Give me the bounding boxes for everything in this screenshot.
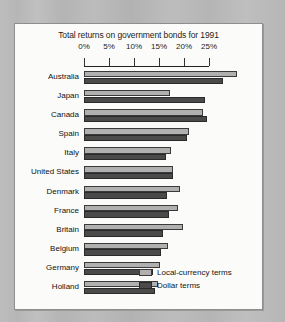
bar-dollar <box>84 135 187 141</box>
bar-local-currency <box>84 147 171 153</box>
x-axis-tick-label: 20% <box>176 42 192 51</box>
legend-label-dollar: Dollar terms <box>157 281 200 290</box>
category-label: Britain <box>15 225 79 234</box>
bar-row: Spain <box>15 126 264 145</box>
category-label: France <box>15 206 79 215</box>
x-axis-tick-label: 10% <box>126 42 142 51</box>
legend-label-local-currency: Local-currency terms <box>157 268 232 277</box>
x-axis-tick <box>84 58 85 66</box>
x-axis-tick-label: 25% <box>201 42 217 51</box>
chart-title: Total returns on government bonds for 19… <box>15 30 262 40</box>
bar-row: Canada <box>15 107 264 126</box>
bar-row: Australia <box>15 69 264 88</box>
bar-dollar <box>84 230 163 236</box>
bar-local-currency <box>84 205 178 211</box>
x-axis-tick-label: 0% <box>78 42 90 51</box>
bar-dollar <box>84 211 169 217</box>
legend-item-dollar: Dollar terms <box>139 280 232 291</box>
x-axis-tick <box>209 58 210 66</box>
x-axis-tick <box>159 58 160 66</box>
chart-legend: Local-currency terms Dollar terms <box>139 267 232 293</box>
bar-dollar <box>84 173 173 179</box>
x-axis-tick <box>134 58 135 66</box>
bar-local-currency <box>84 186 180 192</box>
bar-local-currency <box>84 71 237 77</box>
bar-dollar <box>84 192 167 198</box>
category-label: Holland <box>15 282 79 291</box>
legend-item-local-currency: Local-currency terms <box>139 267 232 278</box>
bar-row: Italy <box>15 145 264 164</box>
category-label: Canada <box>15 110 79 119</box>
legend-swatch-dollar <box>139 282 152 289</box>
bar-rows: AustraliaJapanCanadaSpainItalyUnited Sta… <box>15 69 264 298</box>
x-axis-tick-labels: 0%5%10%15%20%25% <box>15 42 264 53</box>
category-label: Germany <box>15 263 79 272</box>
x-axis-tick <box>184 58 185 66</box>
bar-dollar <box>84 249 161 255</box>
bar-local-currency <box>84 243 168 249</box>
bar-local-currency <box>84 224 183 230</box>
bar-local-currency <box>84 90 170 96</box>
x-axis-line <box>84 66 209 67</box>
legend-swatch-local-currency <box>139 269 152 276</box>
bar-dollar <box>84 154 166 160</box>
bar-row: United States <box>15 164 264 183</box>
category-label: Japan <box>15 91 79 100</box>
category-label: Italy <box>15 148 79 157</box>
category-label: Australia <box>15 72 79 81</box>
category-label: Spain <box>15 129 79 138</box>
x-axis-tick-label: 15% <box>151 42 167 51</box>
bar-row: Britain <box>15 222 264 241</box>
category-label: Denmark <box>15 187 79 196</box>
bar-local-currency <box>84 109 203 115</box>
bar-row: Japan <box>15 88 264 107</box>
category-label: Belgium <box>15 244 79 253</box>
bar-dollar <box>84 97 205 103</box>
bar-row: France <box>15 203 264 222</box>
bar-row: Belgium <box>15 241 264 260</box>
x-axis-tick-label: 5% <box>103 42 115 51</box>
chart-panel: Total returns on government bonds for 19… <box>14 23 263 310</box>
bar-local-currency <box>84 128 189 134</box>
bar-local-currency <box>84 166 173 172</box>
x-axis-tick <box>109 58 110 66</box>
category-label: United States <box>15 167 79 176</box>
bar-dollar <box>84 78 223 84</box>
bar-row: Denmark <box>15 184 264 203</box>
bar-dollar <box>84 116 207 122</box>
